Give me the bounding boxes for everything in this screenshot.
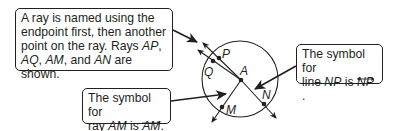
ray-name: AM bbox=[45, 53, 63, 67]
text: , bbox=[158, 39, 161, 53]
ray-symbol: AM bbox=[142, 119, 160, 131]
leader-arrow-ray-symbol bbox=[171, 94, 226, 101]
callout-text-line: ray AM is AM. bbox=[88, 119, 165, 131]
text: . bbox=[160, 119, 163, 131]
text: is bbox=[127, 119, 143, 131]
label-n: N bbox=[262, 88, 271, 102]
text: line bbox=[302, 75, 324, 89]
ray-name: AQ bbox=[21, 53, 39, 67]
callout-text-line: AQ, AM, and AN are shown. bbox=[21, 53, 167, 81]
label-q: Q bbox=[204, 65, 213, 79]
line-symbol: NP bbox=[357, 75, 374, 89]
label-m: M bbox=[226, 103, 236, 117]
text: , and bbox=[64, 53, 95, 67]
ray-name: AN bbox=[94, 53, 111, 67]
point-p bbox=[217, 56, 222, 61]
label-a: A bbox=[239, 64, 248, 78]
callout-text-line: endpoint first, then another bbox=[21, 25, 167, 39]
ray-name: AM bbox=[108, 119, 126, 131]
point-q bbox=[211, 59, 216, 64]
callout-text-line: point on the ray. Rays AP, bbox=[21, 39, 167, 53]
callout-ray-symbol: The symbol for ray AM is AM. bbox=[82, 88, 171, 124]
callout-ray-naming: A ray is named using the endpoint first,… bbox=[15, 8, 173, 71]
ray-name: AP bbox=[142, 39, 158, 53]
text: . bbox=[302, 89, 305, 103]
leader-arrow-ray-naming bbox=[173, 30, 197, 42]
line-name: NP bbox=[324, 75, 341, 89]
callout-text-line: A ray is named using the bbox=[21, 11, 167, 25]
leader-arrow-line-symbol bbox=[255, 66, 296, 89]
ray-arrow-overline-icon bbox=[142, 115, 160, 121]
point-a bbox=[239, 78, 244, 83]
double-arrow-overline-icon bbox=[357, 71, 374, 77]
text: is bbox=[341, 75, 357, 89]
text: point on the ray. Rays bbox=[21, 39, 142, 53]
point-m bbox=[220, 105, 225, 110]
callout-line-symbol: The symbol for line NP is NP. bbox=[296, 44, 383, 84]
label-p: P bbox=[222, 47, 230, 61]
text: ray bbox=[88, 119, 108, 131]
callout-text-line: line NP is NP. bbox=[302, 75, 377, 103]
point-n bbox=[262, 102, 267, 107]
